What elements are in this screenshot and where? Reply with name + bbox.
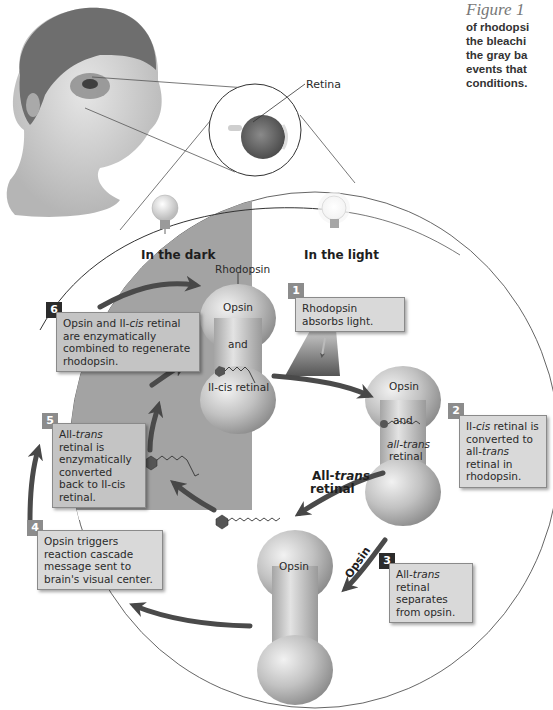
step-text: II- xyxy=(466,420,476,432)
step-text: trans xyxy=(413,568,440,580)
retina-label: Retina xyxy=(306,79,341,91)
step-text: trans xyxy=(482,445,509,457)
rhodopsin-retinal-text: II-cis retinal xyxy=(208,381,269,393)
eye-inset xyxy=(209,84,305,176)
step-text: trans xyxy=(76,428,103,440)
arrow-label-part: trans xyxy=(335,469,370,483)
in-the-light-label: In the light xyxy=(304,248,379,262)
activated-retinal-text: retinal xyxy=(389,450,423,462)
step-text: cis xyxy=(476,420,490,432)
caption-line: conditions. xyxy=(466,76,553,90)
activated-all-trans-text: all-trans xyxy=(387,438,430,450)
figure-caption: Figure 1 of rhodopsi the bleachi the gra… xyxy=(466,0,553,90)
rhodopsin-and-text: and xyxy=(228,338,248,350)
opsin-molecule-text: Opsin xyxy=(279,560,309,572)
step-text: All- xyxy=(59,428,76,440)
rhodopsin-opsin-text: Opsin xyxy=(223,301,253,313)
in-the-dark-label: In the dark xyxy=(141,248,215,262)
figure-label: Figure 1 xyxy=(466,0,553,20)
caption-line: of rhodopsi xyxy=(466,20,553,34)
step-text: All- xyxy=(396,568,413,580)
step-4-box: Opsin triggers reaction cascade message … xyxy=(37,530,163,590)
caption-line: events that xyxy=(466,62,553,76)
bulb-off-icon xyxy=(152,195,178,234)
step-text: Opsin and II- xyxy=(63,317,129,329)
step-text: retinal separates from opsin. xyxy=(396,581,455,618)
arrow-label-part: All- xyxy=(312,469,335,483)
step-6-box: Opsin and II-cis retinal are enzymatical… xyxy=(56,312,200,372)
activated-opsin-text: Opsin xyxy=(389,380,419,392)
caption-line: the bleachi xyxy=(466,34,553,48)
step-5-box: All-trans retinal is enzymatically conve… xyxy=(52,423,146,508)
rhodopsin-label: Rhodopsin xyxy=(215,263,270,275)
human-head-illustration xyxy=(7,8,162,217)
step-3-box: All-trans retinal separates from opsin. xyxy=(389,563,473,623)
retinal-arrow-label: retinal xyxy=(310,482,355,496)
step-text: cis xyxy=(129,317,143,329)
caption-line: the gray ba xyxy=(466,48,553,62)
all-trans-retinal-arrow-label: All-trans xyxy=(312,469,370,483)
activated-and-text: and xyxy=(393,414,413,426)
step-text: retinal in rhodopsin. xyxy=(466,458,521,483)
step-2-box: II-cis retinal is converted to all-trans… xyxy=(459,415,547,488)
step-1-box: Rhodopsin absorbs light. xyxy=(295,297,405,332)
step-text: retinal is enzymatically converted back … xyxy=(59,441,132,503)
